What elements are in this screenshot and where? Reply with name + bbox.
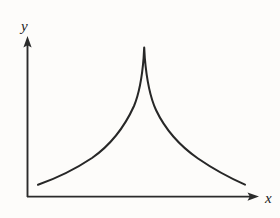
data-curve bbox=[38, 48, 245, 185]
plot-canvas: y x bbox=[0, 0, 280, 218]
y-axis-label: y bbox=[19, 18, 28, 34]
cusp-peak-curve-figure: y x bbox=[0, 0, 280, 218]
x-axis-label: x bbox=[264, 190, 272, 206]
